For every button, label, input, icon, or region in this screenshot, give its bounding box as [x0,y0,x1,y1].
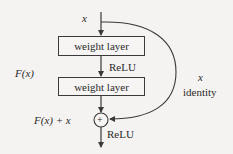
identity-label: identity [183,86,217,98]
weight-layer-1-label: weight layer [74,40,129,52]
relu-after-label: ReLU [107,128,134,140]
fx-label: F(x) [15,67,34,79]
shortcut-x-label: x [198,71,203,83]
residual-block-diagram: x weight layer ReLU F(x) weight layer x … [0,0,233,154]
weight-layer-2: weight layer [58,77,145,96]
relu-between-label: ReLU [109,61,136,73]
weight-layer-1: weight layer [58,36,145,56]
fx-plus-x-label: F(x) + x [34,114,71,126]
plus-symbol: + [97,114,103,126]
input-x-label: x [82,12,87,24]
weight-layer-2-label: weight layer [74,81,129,93]
